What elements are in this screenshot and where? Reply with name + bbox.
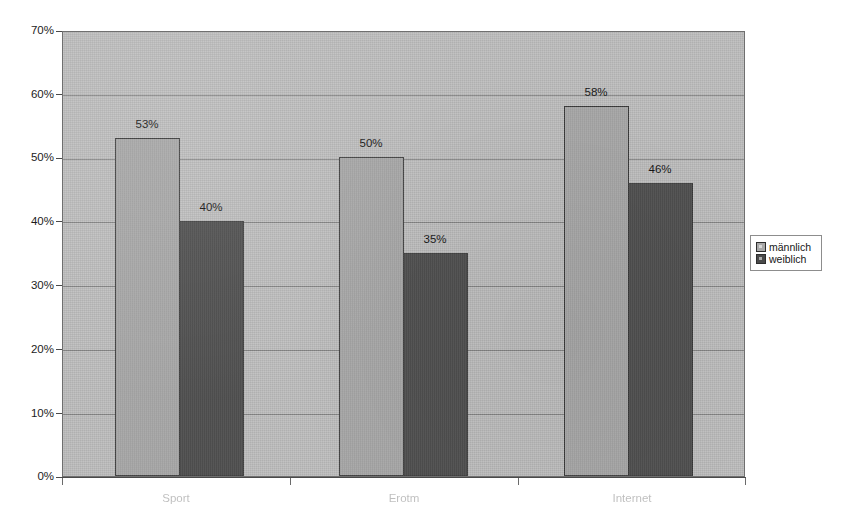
legend-label: weiblich — [769, 254, 806, 265]
chart-legend: männlich weiblich — [750, 235, 822, 271]
legend-label: männlich — [769, 242, 811, 253]
ytick-label: 20% — [18, 343, 54, 355]
ytick-mark — [56, 94, 62, 95]
bar-value-label: 50% — [336, 137, 406, 149]
bar-maennlich-2 — [339, 157, 404, 476]
xtick-mark — [518, 478, 519, 485]
ytick-label: 60% — [18, 88, 54, 100]
bar-maennlich-1 — [115, 138, 180, 476]
bar-weiblich-1 — [179, 221, 244, 476]
bar-maennlich-3 — [564, 106, 629, 476]
bar-value-label: 46% — [625, 163, 695, 175]
ytick-mark — [56, 158, 62, 159]
bar-weiblich-2 — [403, 253, 468, 476]
ytick-mark — [56, 285, 62, 286]
bar-value-label: 40% — [176, 201, 246, 213]
ytick-label: 40% — [18, 215, 54, 227]
bar-value-label: 53% — [112, 118, 182, 130]
xtick-mark — [745, 478, 746, 485]
xtick-label-category-1: Sport — [136, 492, 216, 504]
ytick-label: 10% — [18, 407, 54, 419]
ytick-label: 50% — [18, 151, 54, 163]
ytick-label: 30% — [18, 279, 54, 291]
ytick-mark — [56, 349, 62, 350]
plot-area — [62, 31, 745, 477]
legend-item-maennlich: männlich — [756, 242, 816, 253]
xtick-mark — [290, 478, 291, 485]
legend-swatch-icon — [756, 254, 766, 264]
bar-weiblich-3 — [628, 183, 693, 476]
gridline — [63, 95, 744, 96]
ytick-label: 70% — [18, 24, 54, 36]
ytick-mark — [56, 413, 62, 414]
xtick-mark — [62, 478, 63, 485]
ytick-label: 0% — [18, 470, 54, 482]
legend-swatch-icon — [756, 242, 766, 252]
x-axis-line — [62, 477, 746, 478]
xtick-label-category-2: Erotm — [364, 492, 444, 504]
chart-figure: 70% 60% 50% 40% 30% 20% 10% 0% 53% 40% 5… — [0, 0, 845, 510]
xtick-label-category-3: Internet — [592, 492, 672, 504]
bar-value-label: 58% — [561, 86, 631, 98]
legend-item-weiblich: weiblich — [756, 254, 816, 265]
bar-value-label: 35% — [400, 233, 470, 245]
ytick-mark — [56, 31, 62, 32]
ytick-mark — [56, 221, 62, 222]
